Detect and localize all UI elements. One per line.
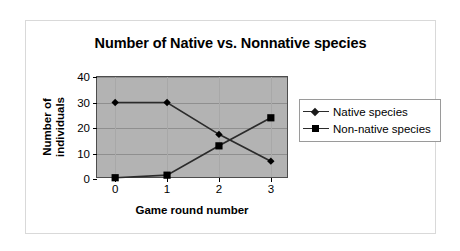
y-tick-label: 30 — [77, 97, 90, 109]
legend-item-native[interactable]: Native species — [303, 103, 436, 120]
data-point-square — [215, 142, 222, 149]
y-axis-title-line-2: individuals — [54, 97, 66, 157]
y-axis-title-line-1: Number of — [41, 98, 53, 156]
data-point-square — [112, 174, 119, 181]
series-line-native — [115, 103, 271, 162]
x-tick-label: 3 — [268, 183, 274, 195]
chart-legend: Native species Non-native species — [299, 99, 441, 142]
legend-label-non-native: Non-native species — [333, 123, 431, 135]
y-tick-mark — [93, 179, 97, 180]
series-line-non-native — [115, 118, 271, 178]
y-tick-label: 0 — [84, 173, 90, 185]
plot-area: 010203040 0123 — [96, 76, 288, 178]
y-tick-label: 20 — [77, 122, 90, 134]
x-tick-label: 0 — [112, 183, 118, 195]
chart-title: Number of Native vs. Nonnative species — [26, 35, 435, 51]
square-marker-icon — [303, 123, 329, 135]
y-tick-label: 10 — [77, 148, 90, 160]
data-point-diamond — [111, 99, 118, 106]
y-tick-label: 40 — [77, 71, 90, 83]
x-tick-label: 1 — [164, 183, 170, 195]
x-tick-label: 2 — [216, 183, 222, 195]
diamond-marker-icon — [303, 106, 329, 118]
data-point-square — [267, 114, 274, 121]
legend-label-native: Native species — [333, 106, 408, 118]
x-axis-title: Game round number — [96, 204, 288, 216]
legend-item-non-native[interactable]: Non-native species — [303, 120, 436, 137]
chart-frame: Number of Native vs. Nonnative species N… — [25, 20, 436, 234]
data-series-layer — [97, 77, 289, 179]
data-point-square — [163, 172, 170, 179]
data-point-diamond — [267, 157, 274, 164]
